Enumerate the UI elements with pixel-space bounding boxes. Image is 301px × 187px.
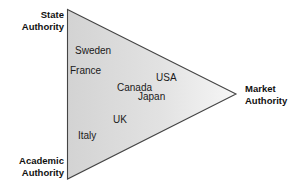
diagram-canvas: State Authority Academic Authority Marke…: [0, 0, 301, 187]
country-label-usa: USA: [156, 72, 177, 83]
country-label-italy: Italy: [78, 130, 96, 141]
country-label-sweden: Sweden: [75, 45, 111, 56]
corner-label-state-authority: State Authority: [22, 9, 64, 32]
country-label-uk: UK: [113, 114, 127, 125]
corner-label-state-line1: State: [22, 9, 64, 21]
country-label-france: France: [70, 65, 101, 76]
country-label-japan: Japan: [138, 91, 165, 102]
corner-label-market-line2: Authority: [245, 95, 287, 107]
corner-label-academic-line1: Academic: [19, 155, 64, 167]
corner-label-market-line1: Market: [245, 83, 287, 95]
corner-label-market-authority: Market Authority: [245, 83, 287, 106]
corner-label-academic-authority: Academic Authority: [19, 155, 64, 178]
corner-label-academic-line2: Authority: [19, 167, 64, 179]
corner-label-state-line2: Authority: [22, 21, 64, 33]
